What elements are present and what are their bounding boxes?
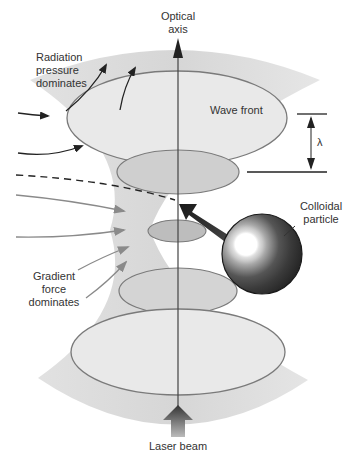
optical-axis-label: Optical axis (153, 10, 203, 36)
radiation-line1: Radiation (36, 51, 87, 64)
radiation-line3: dominates (36, 77, 87, 90)
wave-front-text: Wave front (210, 104, 263, 116)
gradient-line1: Gradient (26, 270, 82, 283)
gradient-line2: force (26, 283, 82, 296)
lambda-label: λ (317, 136, 323, 149)
colloidal-particle-label: Colloidal particle (291, 200, 351, 226)
colloidal-particle (222, 214, 302, 294)
laser-beam-label: Laser beam (138, 440, 218, 453)
colloidal-line2: particle (291, 213, 351, 226)
wave-front-ellipse-waist (148, 220, 206, 242)
optical-axis-line1: Optical (153, 10, 203, 23)
gradient-force-label: Gradient force dominates (26, 270, 82, 309)
colloidal-line1: Colloidal (291, 200, 351, 213)
radiation-pressure-label: Radiation pressure dominates (36, 51, 87, 90)
laser-beam-text: Laser beam (149, 440, 207, 452)
lambda-symbol: λ (317, 136, 323, 148)
wave-front-label: Wave front (210, 104, 263, 117)
gradient-line3: dominates (26, 296, 82, 309)
optical-axis-line2: axis (153, 23, 203, 36)
radiation-line2: pressure (36, 64, 87, 77)
